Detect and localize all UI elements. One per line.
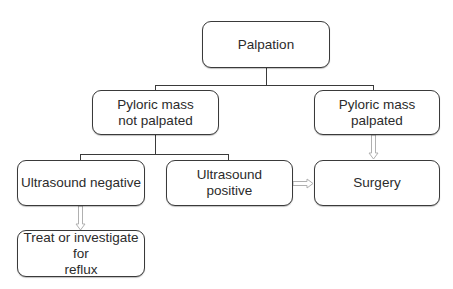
node-ultrasound-negative: Ultrasound negative bbox=[17, 160, 145, 206]
node-palpation: Palpation bbox=[202, 21, 330, 68]
node-pyloric-mass-not-palpated: Pyloric mass not palpated bbox=[92, 90, 219, 135]
node-label: Pyloric mass not palpated bbox=[117, 97, 194, 129]
node-label: Ultrasound negative bbox=[21, 175, 141, 191]
node-surgery: Surgery bbox=[314, 160, 440, 206]
arrow-right-icon bbox=[293, 179, 313, 188]
node-pyloric-mass-palpated: Pyloric mass palpated bbox=[314, 90, 440, 135]
node-label: Ultrasound positive bbox=[197, 167, 262, 199]
arrow-down-icon bbox=[369, 135, 378, 159]
node-label: Palpation bbox=[238, 37, 294, 53]
arrow-down-icon bbox=[76, 206, 85, 230]
node-ultrasound-positive: Ultrasound positive bbox=[166, 160, 293, 206]
node-label: Pyloric mass palpated bbox=[339, 97, 416, 129]
node-treat-or-investigate-reflux: Treat or investigate for reflux bbox=[17, 230, 145, 277]
node-label: Treat or investigate for reflux bbox=[18, 230, 144, 278]
node-label: Surgery bbox=[353, 175, 400, 191]
